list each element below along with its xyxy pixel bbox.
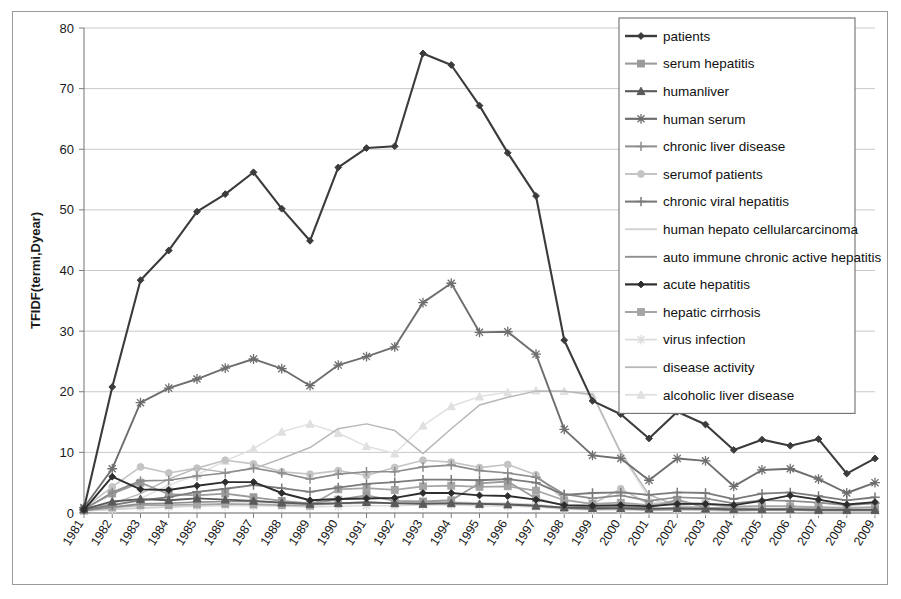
series-acute-hepatitis-pt4-marker xyxy=(194,482,201,489)
legend-label-disease-activity: disease activity xyxy=(663,360,755,375)
legend-label-chronic-viral-hepatitis: chronic viral hepatitis xyxy=(663,194,789,209)
series-human-serum-pt19-marker xyxy=(616,454,626,464)
legend-label-serumof-patients: serumof patients xyxy=(663,167,763,182)
series-human-serum-pt18-marker xyxy=(588,451,598,461)
series-human-serum-pt15-marker xyxy=(503,327,513,337)
x-tick-label-2005: 2005 xyxy=(738,517,765,548)
x-tick-label-2007: 2007 xyxy=(794,517,821,548)
series-chronic-viral-hepatitis-pt21-marker xyxy=(673,488,682,497)
series-human-serum-pt26-marker xyxy=(814,474,824,484)
y-tick-label-60: 60 xyxy=(60,142,74,157)
series-patients-pt24-marker xyxy=(759,436,766,443)
legend-label-humanliver: humanliver xyxy=(663,84,730,99)
legend-label-alcoholic-liver-disease: alcoholic liver disease xyxy=(663,388,794,403)
series-human-serum-pt28-marker xyxy=(870,478,880,488)
legend-swatch-11-marker xyxy=(636,335,646,345)
series-patients-pt11-marker xyxy=(391,143,398,150)
series-human-serum-pt7-marker xyxy=(277,364,287,374)
x-tick-label-2003: 2003 xyxy=(681,517,708,548)
legend-label-serum-hepatitis: serum hepatitis xyxy=(663,56,755,71)
series-human-serum-pt13-marker xyxy=(446,278,456,288)
series-chronic-viral-hepatitis-pt20-marker xyxy=(644,490,653,499)
x-tick-label-1990: 1990 xyxy=(314,517,341,548)
series-chronic-viral-hepatitis-pt8-marker xyxy=(305,487,314,496)
series-serumof-patients-pt15-marker xyxy=(504,461,511,468)
x-tick-label-1999: 1999 xyxy=(568,517,595,548)
legend: patientsserum hepatitishumanliverhuman s… xyxy=(619,18,882,413)
series-chronic-viral-hepatitis-pt22-marker xyxy=(701,488,710,497)
series-acute-hepatitis-pt15-marker xyxy=(504,493,511,500)
series-human-serum-pt3-marker xyxy=(164,383,174,393)
x-tick-label-1992: 1992 xyxy=(371,517,398,548)
series-human-serum-pt12-marker xyxy=(418,298,428,308)
x-tick-label-1981: 1981 xyxy=(60,517,87,548)
series-human-serum-pt8-marker xyxy=(305,381,315,391)
x-tick-label-2000: 2000 xyxy=(597,517,624,548)
x-tick-label-1997: 1997 xyxy=(512,517,539,548)
x-tick-label-1986: 1986 xyxy=(201,517,228,548)
series-human-serum-pt2-marker xyxy=(136,398,146,408)
series-patients-pt12-marker xyxy=(420,50,427,57)
legend-swatch-1-marker xyxy=(638,60,645,67)
x-tick-label-1995: 1995 xyxy=(455,517,482,548)
series-human-serum-pt20-marker xyxy=(644,475,654,485)
series-serumof-patients-pt3-marker xyxy=(165,470,172,477)
series-acute-hepatitis-pt13-marker xyxy=(448,490,455,497)
x-tick-label-2009: 2009 xyxy=(851,517,878,548)
y-tick-label-80: 80 xyxy=(60,21,74,36)
legend-label-hepatic-cirrhosis: hepatic cirrhosis xyxy=(663,305,761,320)
series-human-serum-pt11-marker xyxy=(390,342,400,352)
legend-item-auto-immune-chronic-active-hepatitis[interactable]: auto immune chronic active hepatitis xyxy=(625,250,882,265)
x-tick-label-2006: 2006 xyxy=(766,517,793,548)
x-tick-label-2008: 2008 xyxy=(823,517,850,548)
xtick-labels: 1981198219831984198519861987198819891990… xyxy=(60,517,878,548)
legend-label-patients: patients xyxy=(663,29,711,44)
x-tick-label-1984: 1984 xyxy=(145,517,172,548)
ytick-labels: 01020304050607080 xyxy=(60,21,74,521)
legend-label-auto-immune-chronic-active-hepatitis: auto immune chronic active hepatitis xyxy=(663,250,882,265)
series-human-serum-pt27-marker xyxy=(842,488,852,498)
series-alcoholic-liver-disease-pt6-marker xyxy=(250,445,258,452)
legend-swatch-10-marker xyxy=(638,309,645,316)
legend-label-human-hepato-cellularcarcinoma: human hepato cellularcarcinoma xyxy=(663,222,859,237)
series-human-serum-pt23-marker xyxy=(729,481,739,491)
y-tick-label-50: 50 xyxy=(60,202,74,217)
y-tick-label-30: 30 xyxy=(60,324,74,339)
x-tick-label-2001: 2001 xyxy=(625,517,652,548)
series-human-serum-pt14-marker xyxy=(475,327,485,337)
y-tick-label-10: 10 xyxy=(60,445,74,460)
x-tick-label-1994: 1994 xyxy=(427,517,454,548)
chart-figure: 01020304050607080 1981198219831984198519… xyxy=(0,0,901,599)
x-tick-label-1988: 1988 xyxy=(258,517,285,548)
series-alcoholic-liver-disease-pt10-marker xyxy=(363,442,371,449)
series-chronic-liver-disease-pt5-marker xyxy=(221,468,230,477)
series-acute-hepatitis-pt5-marker xyxy=(222,479,229,486)
x-tick-label-2002: 2002 xyxy=(653,517,680,548)
x-tick-label-1989: 1989 xyxy=(286,517,313,548)
series-human-serum-pt24-marker xyxy=(757,465,767,475)
y-axis-title-text: TFIDF(termi,Dyear) xyxy=(28,212,43,329)
legend-label-human-serum: human serum xyxy=(663,112,746,127)
x-tick-label-1985: 1985 xyxy=(173,517,200,548)
series-hepatic-cirrhosis-pt11-marker xyxy=(391,487,398,494)
legend-swatch-3-marker xyxy=(636,114,646,124)
series-human-serum-pt16-marker xyxy=(531,349,541,359)
series-patients-pt17-marker xyxy=(561,337,568,344)
series-human-serum-pt1-marker xyxy=(107,464,117,474)
series-serumof-patients-pt2-marker xyxy=(137,464,144,471)
series-human-serum-pt25-marker xyxy=(785,464,795,474)
series-human-serum-pt21-marker xyxy=(672,454,682,464)
x-tick-label-1991: 1991 xyxy=(342,517,369,548)
series-chronic-viral-hepatitis-pt11-marker xyxy=(390,477,399,486)
x-tick-label-1983: 1983 xyxy=(116,517,143,548)
series-alcoholic-liver-disease-pt8-marker xyxy=(306,420,314,427)
series-acute-hepatitis-pt12-marker xyxy=(420,490,427,497)
y-tick-label-20: 20 xyxy=(60,384,74,399)
y-axis-title: TFIDF(termi,Dyear) xyxy=(28,212,43,329)
legend-swatch-5-marker xyxy=(638,171,645,178)
legend-label-chronic-liver-disease: chronic liver disease xyxy=(663,139,785,154)
legend-label-acute-hepatitis: acute hepatitis xyxy=(663,277,750,292)
x-tick-label-1987: 1987 xyxy=(229,517,256,548)
x-tick-label-1982: 1982 xyxy=(88,517,115,548)
series-serumof-patients-pt5-marker xyxy=(222,457,229,464)
